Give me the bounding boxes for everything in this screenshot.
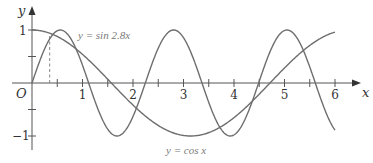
y-axis-arrow-icon [29,6,36,15]
x-axis-label: x [362,85,370,100]
y-tick-label-minus-1: −1 [12,129,30,143]
x-tick-label: 1 [79,88,87,102]
x-tick-label: 4 [230,88,238,102]
y-axis-label: y [17,3,26,18]
x-tick-label: 2 [129,88,137,102]
y-tick-label-1: 1 [19,24,27,38]
origin-label: O [16,86,27,101]
x-axis-arrow-icon [352,80,361,87]
sin-curve-label: y = sin 2.8x [77,29,130,41]
x-tick-label: 5 [281,88,289,102]
cos-curve-label: y = cos x [165,144,206,156]
function-graph: 123456 y x O 1 −1 y = sin 2.8x y = cos x [0,0,373,163]
x-tick-label: 6 [331,88,339,102]
x-tick-label: 3 [180,88,188,102]
